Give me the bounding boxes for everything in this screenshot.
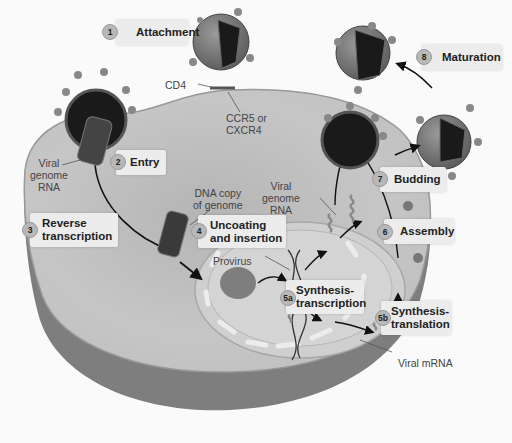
provirus-annotation: Provirus: [213, 255, 252, 267]
dna-copy-annotation: DNA copy of genome: [193, 187, 243, 211]
hiv-life-cycle-diagram: CD4 CCR5 or CXCR4 Viral genome RNA DNA c…: [0, 0, 512, 443]
step-7-budding-label: Budding: [380, 167, 446, 192]
viral-genome-rna-left-annotation: Viral genome RNA: [30, 157, 68, 193]
step-3-reverse-transcription-label: Reverse transcription: [30, 213, 118, 247]
step-1-attachment-label: Attachment: [116, 20, 188, 45]
capsid-in-nucleus-icon: [220, 267, 256, 299]
step-5a-transcription-label: Synthesis- transcription: [286, 280, 364, 314]
cd4-annotation: CD4: [165, 79, 186, 91]
attaching-virus-icon: [189, 8, 254, 88]
step-7-badge: 7: [372, 171, 388, 187]
step-5a-badge: 5a: [280, 290, 296, 306]
viral-mrna-annotation: Viral mRNA: [398, 357, 453, 369]
viral-genome-rna-right-annotation: Viral genome RNA: [262, 180, 300, 216]
step-4-badge: 4: [191, 223, 207, 239]
step-1-badge: 1: [102, 24, 118, 40]
step-6-assembly-label: Assembly: [384, 219, 454, 244]
step-2-badge: 2: [110, 154, 126, 170]
step-5b-badge: 5b: [375, 310, 391, 326]
step-3-badge: 3: [22, 222, 38, 238]
coreceptor-annotation: CCR5 or CXCR4: [226, 112, 267, 136]
step-4-uncoating-label: Uncoating and insertion: [198, 215, 286, 248]
mature-virus-icon: [334, 22, 396, 94]
step-5b-translation-label: Synthesis- translation: [381, 301, 451, 335]
step-8-badge: 8: [416, 49, 432, 65]
step-8-maturation-label: Maturation: [422, 45, 502, 70]
step-6-badge: 6: [377, 224, 393, 240]
